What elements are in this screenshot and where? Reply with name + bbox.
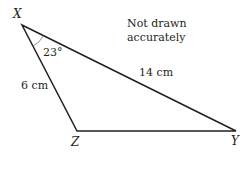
angle-label-x: 23° [43,46,63,59]
side-label-xz: 6 cm [21,79,48,92]
vertex-label-z: Z [71,135,79,149]
not-drawn-accurately-note: Not drawn accurately [127,17,187,45]
vertex-label-y: Y [231,134,239,148]
vertex-label-x: X [13,7,22,21]
note-line-1: Not drawn [127,17,187,31]
side-label-xy: 14 cm [139,66,173,79]
angle-arc-x [32,36,43,47]
note-line-2: accurately [127,31,187,45]
